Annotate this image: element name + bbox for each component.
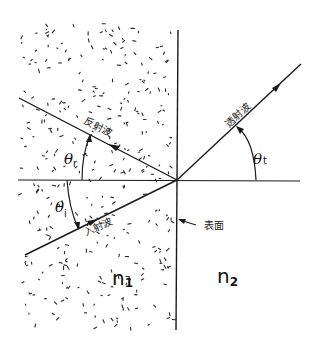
theta-i-label: θi (55, 198, 67, 219)
medium-1-label: n1 (112, 266, 133, 290)
theta-i-arc (67, 180, 78, 228)
refraction-diagram: 反射波 入射波 透射波 表面 θr θi θt n1 n2 (0, 0, 316, 354)
surface-pointer-arrow-icon (178, 219, 186, 224)
medium-2-label: n2 (217, 264, 238, 289)
transmitted-wave-label: 透射波 (222, 100, 252, 129)
medium-1-speckle-texture (18, 24, 175, 331)
reflected-ray (19, 98, 177, 180)
reflected-wave-label: 反射波 (82, 114, 114, 138)
normal-line (18, 180, 300, 181)
transmitted-ray (177, 64, 301, 180)
incident-wave-label: 入射波 (82, 214, 114, 238)
theta-r-arc (82, 136, 90, 180)
theta-r-label: θr (64, 150, 78, 169)
theta-t-label: θt (253, 150, 267, 168)
surface-label: 表面 (204, 219, 224, 231)
